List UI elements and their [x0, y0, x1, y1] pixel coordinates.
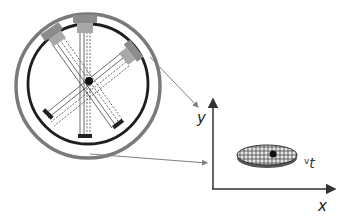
connector-arrow-lower [90, 154, 207, 163]
object-label: vt [304, 155, 315, 171]
object-slice [236, 143, 298, 168]
diagram-canvas: y x vt [0, 0, 349, 222]
object-label-main: t [309, 155, 315, 171]
center-marker [85, 77, 93, 85]
detector-bottom [78, 134, 92, 138]
detector-right [112, 119, 124, 130]
xray-source-upper-left [40, 22, 68, 49]
x-axis-label: x [317, 197, 327, 215]
y-axis-label: y [196, 109, 207, 127]
object-marker [270, 151, 277, 158]
xray-source-upper-right [116, 40, 143, 68]
scanner-gantry [16, 14, 160, 158]
